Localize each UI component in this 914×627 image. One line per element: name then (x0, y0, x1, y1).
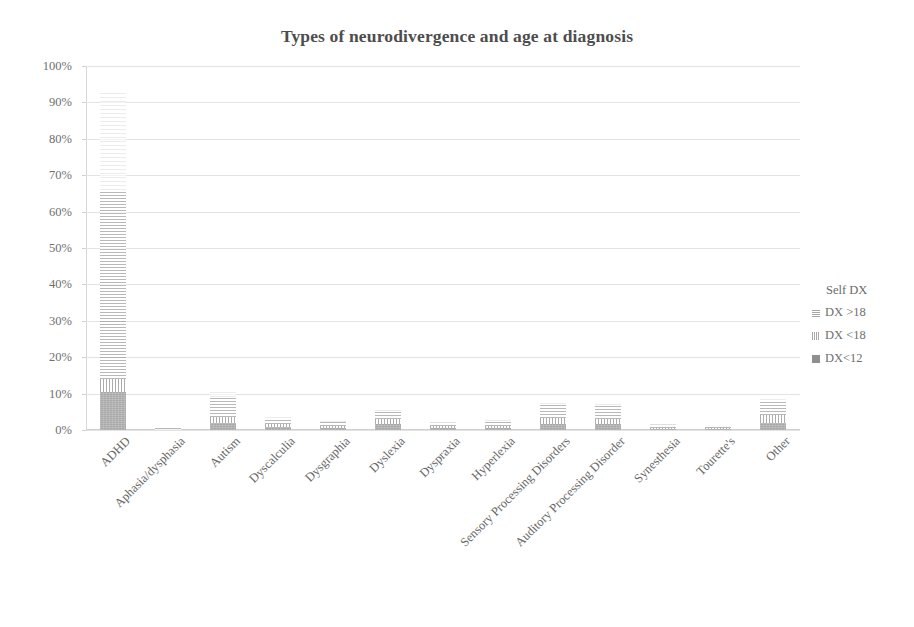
y-tick-label: 90% (49, 95, 72, 110)
gridline (86, 430, 800, 431)
bar-segment[interactable] (375, 424, 401, 430)
bar-segment[interactable] (650, 424, 676, 425)
bar-segment[interactable] (100, 379, 126, 392)
bar-segment[interactable] (430, 428, 456, 430)
bar-segment[interactable] (760, 423, 786, 430)
bar-segment[interactable] (375, 419, 401, 424)
bar-segment[interactable] (540, 424, 566, 430)
legend-label: DX >18 (825, 305, 866, 320)
bar-segment[interactable] (100, 190, 126, 379)
bar-group[interactable] (210, 391, 236, 430)
y-tick-label: 20% (49, 350, 72, 365)
bar-segment[interactable] (375, 411, 401, 419)
bar-segment[interactable] (210, 423, 236, 430)
y-axis-labels: 0%10%20%30%40%50%60%70%80%90%100% (0, 66, 80, 430)
bar-segment[interactable] (320, 421, 346, 422)
bar-segment[interactable] (100, 92, 126, 190)
bar-segment[interactable] (540, 418, 566, 424)
legend-item[interactable]: DX<12 (812, 351, 910, 366)
x-tick-label: Autism (207, 434, 244, 471)
bar-group[interactable] (375, 410, 401, 430)
bar-segment[interactable] (155, 429, 181, 430)
y-tick-label: 40% (49, 277, 72, 292)
x-tick-label: Hyperlexia (469, 434, 519, 484)
bar-segment[interactable] (265, 418, 291, 424)
x-tick-label: Dyspraxia (417, 434, 464, 481)
bar-group[interactable] (265, 417, 291, 430)
bar-segment[interactable] (595, 419, 621, 424)
bar-segment[interactable] (760, 400, 786, 415)
y-tick-label: 100% (43, 59, 72, 74)
x-tick-label: Sensory Processing Disorders (457, 434, 573, 550)
y-tick-label: 10% (49, 386, 72, 401)
bar-segment[interactable] (540, 400, 566, 404)
legend-label: DX <18 (825, 328, 866, 343)
bar-segment[interactable] (265, 424, 291, 427)
bar-group[interactable] (650, 424, 676, 431)
bar-segment[interactable] (210, 397, 236, 417)
x-tick-label: Synesthesia (631, 434, 683, 486)
y-tick-label: 80% (49, 131, 72, 146)
bar-segment[interactable] (155, 427, 181, 428)
bar-segment[interactable] (265, 427, 291, 430)
bar-segment[interactable] (100, 392, 126, 430)
bar-segment[interactable] (485, 426, 511, 428)
plot-area (86, 66, 800, 430)
bar-segment[interactable] (155, 429, 181, 430)
bar-segment[interactable] (760, 415, 786, 423)
bar-segment[interactable] (320, 426, 346, 428)
bar-group[interactable] (705, 427, 731, 430)
x-tick-label: Dyslexia (367, 434, 409, 476)
legend-item[interactable]: DX <18 (812, 328, 910, 343)
bar-group[interactable] (595, 402, 621, 430)
x-tick-label: Other (762, 434, 793, 465)
bar-segment[interactable] (265, 417, 291, 418)
bar-group[interactable] (155, 427, 181, 430)
y-tick-mark (82, 430, 86, 431)
chart-container: Types of neurodivergence and age at diag… (0, 0, 914, 627)
bar-segment[interactable] (210, 391, 236, 396)
bar-segment[interactable] (485, 428, 511, 430)
x-tick-label: Auditory Processing Disorder (512, 434, 628, 550)
bar-segment[interactable] (705, 429, 731, 430)
bar-segment[interactable] (650, 428, 676, 429)
legend-swatch-icon (812, 332, 820, 340)
chart-legend: Self DX DX >18DX <18DX<12 (812, 283, 910, 374)
bar-segment[interactable] (485, 421, 511, 426)
bar-segment[interactable] (320, 422, 346, 426)
bar-group[interactable] (320, 421, 346, 430)
bar-segment[interactable] (430, 422, 456, 426)
bar-series-container (86, 66, 800, 430)
bar-segment[interactable] (485, 420, 511, 421)
legend-swatch-icon (812, 309, 820, 317)
bar-segment[interactable] (705, 427, 731, 428)
bar-segment[interactable] (595, 402, 621, 405)
bar-segment[interactable] (210, 417, 236, 423)
y-tick-label: 0% (55, 423, 72, 438)
bar-segment[interactable] (375, 410, 401, 411)
legend-title: Self DX (826, 283, 910, 298)
bar-segment[interactable] (430, 422, 456, 423)
bar-group[interactable] (485, 420, 511, 430)
bar-segment[interactable] (705, 428, 731, 429)
bar-segment[interactable] (595, 424, 621, 430)
bar-group[interactable] (760, 399, 786, 430)
bar-segment[interactable] (540, 404, 566, 419)
bar-segment[interactable] (430, 426, 456, 428)
bar-group[interactable] (430, 422, 456, 430)
x-tick-label: Tourette's (693, 434, 738, 479)
bar-segment[interactable] (320, 428, 346, 430)
y-tick-label: 30% (49, 313, 72, 328)
bar-segment[interactable] (650, 429, 676, 430)
y-tick-label: 60% (49, 204, 72, 219)
bar-segment[interactable] (650, 424, 676, 428)
legend-items: DX >18DX <18DX<12 (812, 305, 910, 366)
legend-swatch-icon (812, 355, 820, 363)
bar-segment[interactable] (595, 405, 621, 419)
x-tick-label: Dysgraphia (302, 434, 353, 485)
bar-group[interactable] (100, 92, 126, 430)
bar-segment[interactable] (760, 399, 786, 400)
legend-item[interactable]: DX >18 (812, 305, 910, 320)
bar-group[interactable] (540, 400, 566, 430)
x-tick-label: Dyscalculia (246, 434, 298, 486)
